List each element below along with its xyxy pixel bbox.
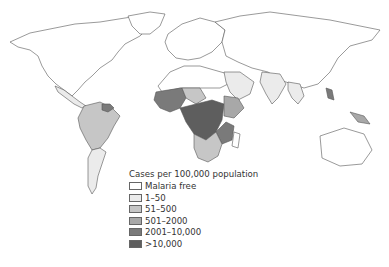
legend-title: Cases per 100,000 population [129, 170, 258, 179]
region-arabia [224, 72, 254, 100]
legend-label: >10,000 [145, 240, 182, 249]
legend-item: 501–2000 [129, 215, 258, 227]
legend-item: >10,000 [129, 238, 258, 250]
legend-label: 51–500 [145, 205, 177, 214]
legend-swatch [129, 182, 142, 190]
region-europe [165, 18, 225, 60]
legend-item: 2001–10,000 [129, 227, 258, 239]
legend-label: 2001–10,000 [145, 228, 201, 237]
region-australia [320, 128, 372, 166]
legend-swatch [129, 194, 142, 202]
legend-swatch [129, 228, 142, 236]
region-papua-new-guinea [350, 112, 370, 124]
region-horn-of-africa [224, 96, 244, 118]
legend-label: 501–2000 [145, 217, 188, 226]
legend-swatch [129, 240, 142, 248]
legend-item: 1–50 [129, 192, 258, 204]
legend-item: Malaria free [129, 181, 258, 193]
legend-swatch [129, 205, 142, 213]
legend-swatch [129, 217, 142, 225]
region-madagascar [232, 132, 240, 148]
region-south-america-north [78, 102, 120, 150]
legend-label: Malaria free [145, 182, 196, 191]
legend-label: 1–50 [145, 194, 166, 203]
legend-item: 51–500 [129, 204, 258, 216]
region-south-america-south [88, 148, 106, 194]
region-philippines [326, 88, 334, 100]
map-legend: Cases per 100,000 population Malaria fre… [129, 170, 258, 250]
region-sahel [182, 88, 206, 104]
